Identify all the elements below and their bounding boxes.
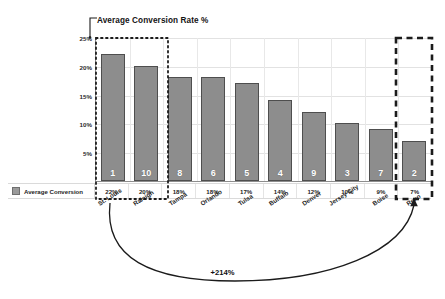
y-axis-tick: 5% <box>83 150 92 157</box>
bar-series: 11086549372 <box>96 38 431 181</box>
bar-rank-label: 6 <box>202 168 224 178</box>
bar[interactable]: 4 <box>268 100 292 181</box>
category-slot: St. Louis <box>95 200 129 246</box>
page-title: Average Conversion Rate % <box>97 16 208 25</box>
bar-rank-label: 3 <box>336 168 358 178</box>
bar-slot: 3 <box>331 38 365 181</box>
bar[interactable]: 7 <box>369 129 393 181</box>
bar[interactable]: 9 <box>302 112 326 181</box>
bar-slot: 2 <box>398 38 432 181</box>
bar[interactable]: 1 <box>101 54 125 181</box>
bar-rank-label: 10 <box>135 168 157 178</box>
bar[interactable]: 2 <box>402 141 426 181</box>
category-slot: Boise <box>364 200 398 246</box>
chart-canvas: Average Conversion Rate % 25% 20% 15% 10… <box>0 0 445 299</box>
category-slot: Raleigh <box>129 200 163 246</box>
bar-slot: 7 <box>364 38 398 181</box>
category-slot: Tulsa <box>229 200 263 246</box>
category-slot: Reno <box>397 200 431 246</box>
legend-label: Average Conversion <box>24 188 83 195</box>
x-axis-labels: St. LouisRaleighTampaOrlandoTulsaBuffalo… <box>95 200 431 246</box>
bar-slot: 10 <box>130 38 164 181</box>
bar[interactable]: 3 <box>335 123 359 181</box>
legend: Average Conversion <box>8 184 95 198</box>
bar[interactable]: 10 <box>134 66 158 181</box>
bar[interactable]: 5 <box>235 83 259 181</box>
bar-slot: 8 <box>163 38 197 181</box>
bar[interactable]: 6 <box>201 77 225 181</box>
category-slot: Tampa <box>162 200 196 246</box>
legend-swatch-icon <box>12 187 20 195</box>
y-axis-tick: 10% <box>80 121 92 128</box>
bar-slot: 6 <box>197 38 231 181</box>
bar-slot: 1 <box>96 38 130 181</box>
bar-rank-label: 7 <box>370 168 392 178</box>
bar-rank-label: 4 <box>269 168 291 178</box>
bar-rank-label: 9 <box>303 168 325 178</box>
bar-rank-label: 8 <box>169 168 191 178</box>
category-slot: Denver <box>297 200 331 246</box>
bar-slot: 9 <box>297 38 331 181</box>
y-axis-tick: 20% <box>80 63 92 70</box>
bar-slot: 5 <box>230 38 264 181</box>
bar-slot: 4 <box>264 38 298 181</box>
plot-area: 25% 20% 15% 10% 5% 11086549372 <box>95 38 431 182</box>
bar-rank-label: 5 <box>236 168 258 178</box>
y-axis-tick: 25% <box>80 35 92 42</box>
category-slot: Jersey City <box>330 200 364 246</box>
bar-rank-label: 2 <box>403 168 425 178</box>
category-slot: Buffalo <box>263 200 297 246</box>
chart-title-group: Average Conversion Rate % <box>88 13 208 27</box>
bar[interactable]: 8 <box>168 77 192 181</box>
y-axis-tick: 15% <box>80 92 92 99</box>
category-slot: Orlando <box>196 200 230 246</box>
delta-annotation: +214% <box>0 268 445 277</box>
bar-rank-label: 1 <box>102 168 124 178</box>
